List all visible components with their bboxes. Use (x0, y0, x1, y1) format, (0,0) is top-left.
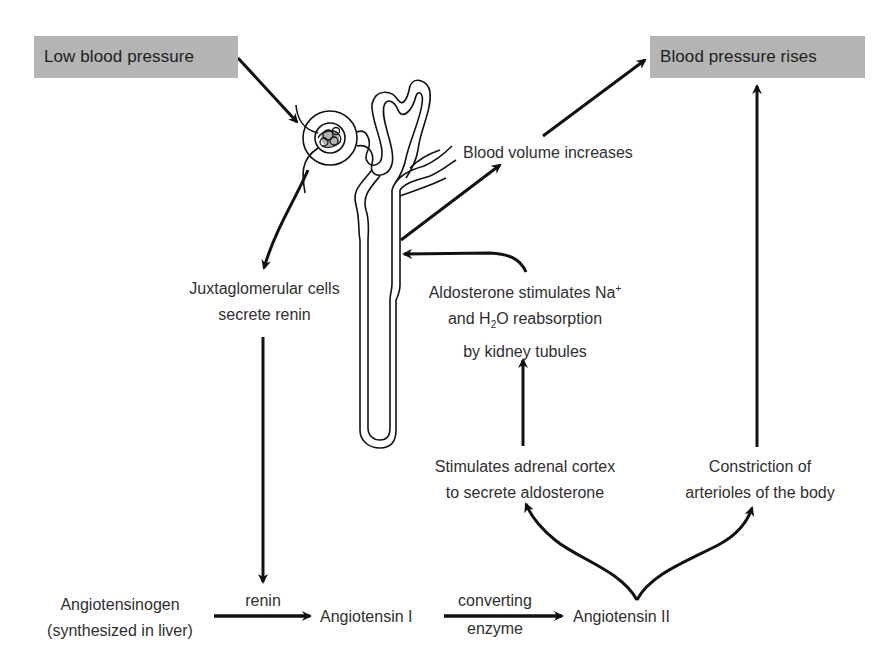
aldosterone-effect-line2: and H2O reabsorption (400, 306, 650, 338)
jg-cells-label: Juxtaglomerular cells secrete renin (142, 276, 387, 328)
renin-text: renin (245, 592, 281, 609)
adrenal-label: Stimulates adrenal cortex to secrete ald… (405, 454, 645, 506)
aldosterone-effect-line3: by kidney tubules (400, 339, 650, 365)
low-blood-pressure-box: Low blood pressure (34, 36, 238, 78)
arrow-angiotensin2-to-adrenal (526, 504, 637, 600)
angiotensin1-label: Angiotensin I (320, 604, 413, 630)
arrow-angiotensin2-to-constriction (637, 508, 752, 600)
nephron-icon (296, 80, 456, 448)
angiotensinogen-line1: Angiotensinogen (20, 592, 220, 618)
constriction-line2: arterioles of the body (665, 480, 855, 506)
adrenal-line1: Stimulates adrenal cortex (405, 454, 645, 480)
angiotensinogen-line2: (synthesized in liver) (20, 618, 220, 644)
converting-label: converting (440, 588, 550, 614)
constriction-line1: Constriction of (665, 454, 855, 480)
adrenal-line2: to secrete aldosterone (405, 480, 645, 506)
converting-text: converting (458, 592, 532, 609)
renin-label: renin (238, 588, 288, 614)
aldosterone-effect-line1: Aldosterone stimulates Na+ (400, 276, 650, 306)
blood-pressure-rises-text: Blood pressure rises (660, 47, 817, 67)
blood-pressure-rises-box: Blood pressure rises (650, 36, 865, 78)
blood-volume-label: Blood volume increases (463, 140, 633, 166)
aldosterone-effect-label: Aldosterone stimulates Na+ and H2O reabs… (400, 276, 650, 365)
arrow-low-bp-to-nephron (238, 58, 297, 122)
jg-cells-line2: secrete renin (142, 302, 387, 328)
blood-volume-text: Blood volume increases (463, 144, 633, 161)
angiotensin2-label: Angiotensin II (573, 604, 670, 630)
arrow-to-blood-volume (401, 165, 500, 240)
constriction-label: Constriction of arterioles of the body (665, 454, 855, 506)
low-blood-pressure-text: Low blood pressure (44, 47, 194, 67)
jg-cells-line1: Juxtaglomerular cells (142, 276, 387, 302)
arrow-blood-volume-to-bp-rises (543, 60, 645, 136)
angiotensinogen-label: Angiotensinogen (synthesized in liver) (20, 592, 220, 644)
angiotensin2-text: Angiotensin II (573, 608, 670, 625)
angiotensin1-text: Angiotensin I (320, 608, 413, 625)
arrow-aldosterone-to-tubule (404, 253, 526, 272)
raas-diagram: Low blood pressure Blood pressure rises … (0, 0, 895, 671)
enzyme-text: enzyme (467, 620, 523, 637)
enzyme-label: enzyme (440, 616, 550, 642)
arrow-to-jg-cells (264, 170, 308, 268)
